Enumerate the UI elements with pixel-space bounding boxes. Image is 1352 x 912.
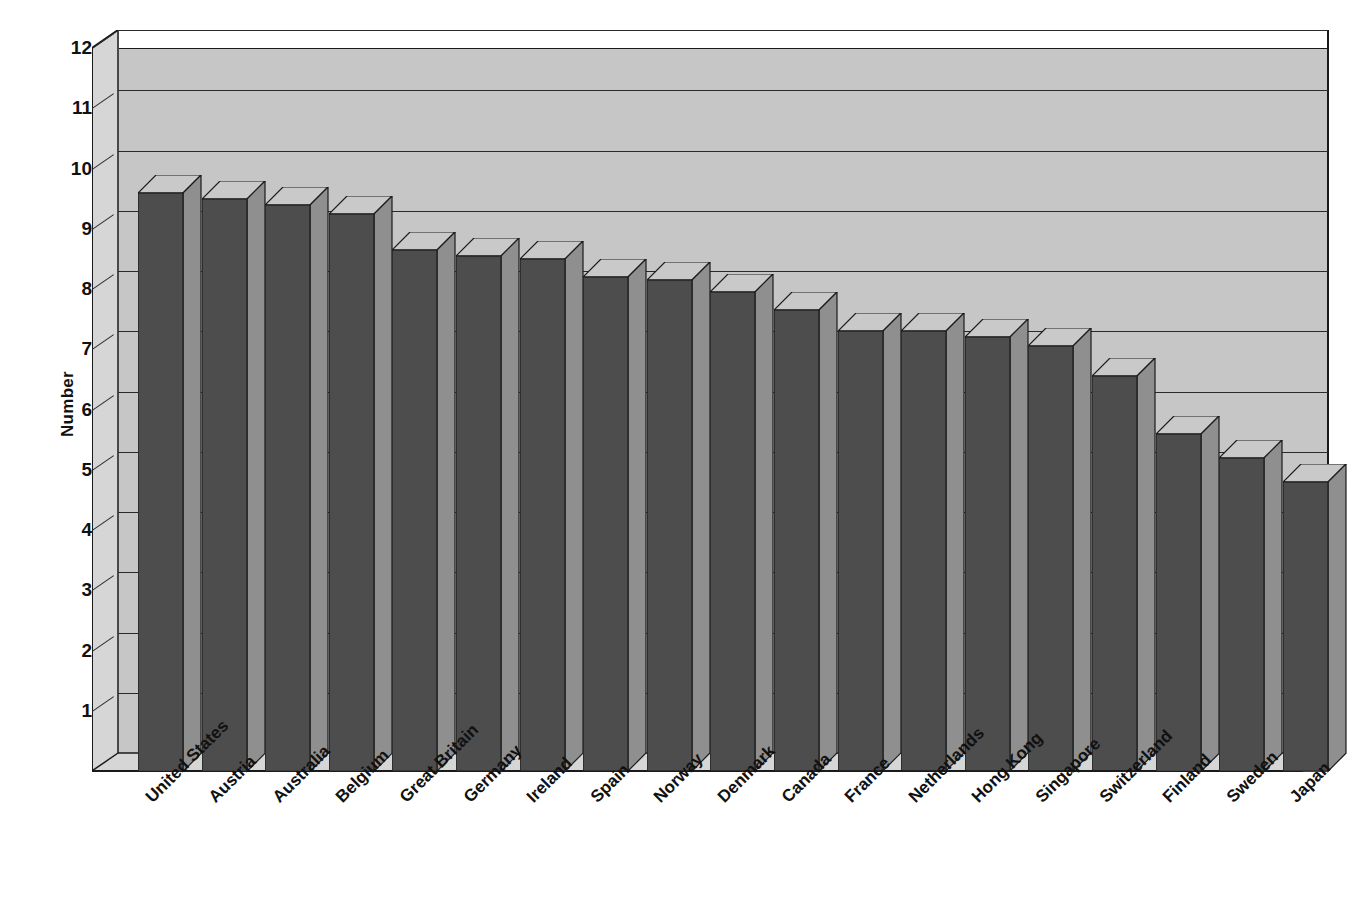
bar-chart: Number 121110987654321 United StatesAust… — [0, 0, 1352, 912]
bar-belgium — [329, 214, 374, 771]
bar-3d-faces — [1092, 358, 1157, 773]
bar-united-states — [138, 193, 183, 771]
bar-ireland — [520, 259, 565, 771]
bar-3d-faces — [965, 319, 1030, 773]
bar-austria — [202, 199, 247, 771]
bar-3d-faces — [838, 313, 903, 773]
bar-australia — [265, 205, 310, 771]
plot-area — [92, 30, 1332, 810]
y-axis-tick-label: 12 — [52, 38, 92, 57]
y-axis-tick-label: 9 — [52, 219, 92, 238]
bar-japan — [1283, 482, 1328, 771]
bar-3d-faces — [710, 274, 775, 773]
bar-3d-faces — [774, 292, 839, 773]
y-axis-tick-label: 7 — [52, 339, 92, 358]
bar-3d-faces — [265, 187, 330, 773]
bar-spain — [583, 277, 628, 771]
y-axis-tick-labels: 121110987654321 — [40, 0, 92, 912]
bar-3d-faces — [1028, 328, 1093, 773]
bar-3d-faces — [1283, 464, 1348, 773]
bar-3d-faces — [329, 196, 394, 773]
bar-3d-faces — [520, 241, 585, 773]
plot-left-wall — [92, 30, 120, 790]
bar-3d-faces — [583, 259, 648, 773]
bar-singapore — [1028, 346, 1073, 771]
y-axis-tick-label: 5 — [52, 460, 92, 479]
bar-france — [838, 331, 883, 771]
gridline — [118, 90, 1328, 91]
bar-3d-faces — [138, 175, 203, 773]
gridline — [118, 30, 1328, 31]
bar-great-britain — [392, 250, 437, 771]
bar-hong-kong — [965, 337, 1010, 771]
bar-3d-faces — [392, 232, 457, 773]
bar-3d-faces — [202, 181, 267, 773]
bar-netherlands — [901, 331, 946, 771]
bar-canada — [774, 310, 819, 771]
y-axis-tick-label: 4 — [52, 520, 92, 539]
bar-finland — [1156, 434, 1201, 771]
y-axis-tick-label: 10 — [52, 159, 92, 178]
y-axis-tick-label: 11 — [52, 98, 92, 117]
bar-norway — [647, 280, 692, 771]
y-axis-tick-label: 3 — [52, 580, 92, 599]
bar-3d-faces — [1219, 440, 1284, 773]
bar-denmark — [710, 292, 755, 771]
y-axis-tick-label: 1 — [52, 701, 92, 720]
y-axis-tick-label: 8 — [52, 279, 92, 298]
y-axis-tick-label: 2 — [52, 641, 92, 660]
bar-3d-faces — [456, 238, 521, 773]
bar-germany — [456, 256, 501, 771]
bar-3d-faces — [1156, 416, 1221, 773]
y-axis-tick-label: 6 — [52, 400, 92, 419]
bar-sweden — [1219, 458, 1264, 771]
bar-3d-faces — [647, 262, 712, 773]
bar-switzerland — [1092, 376, 1137, 771]
gridline — [118, 151, 1328, 152]
bar-3d-faces — [901, 313, 966, 773]
